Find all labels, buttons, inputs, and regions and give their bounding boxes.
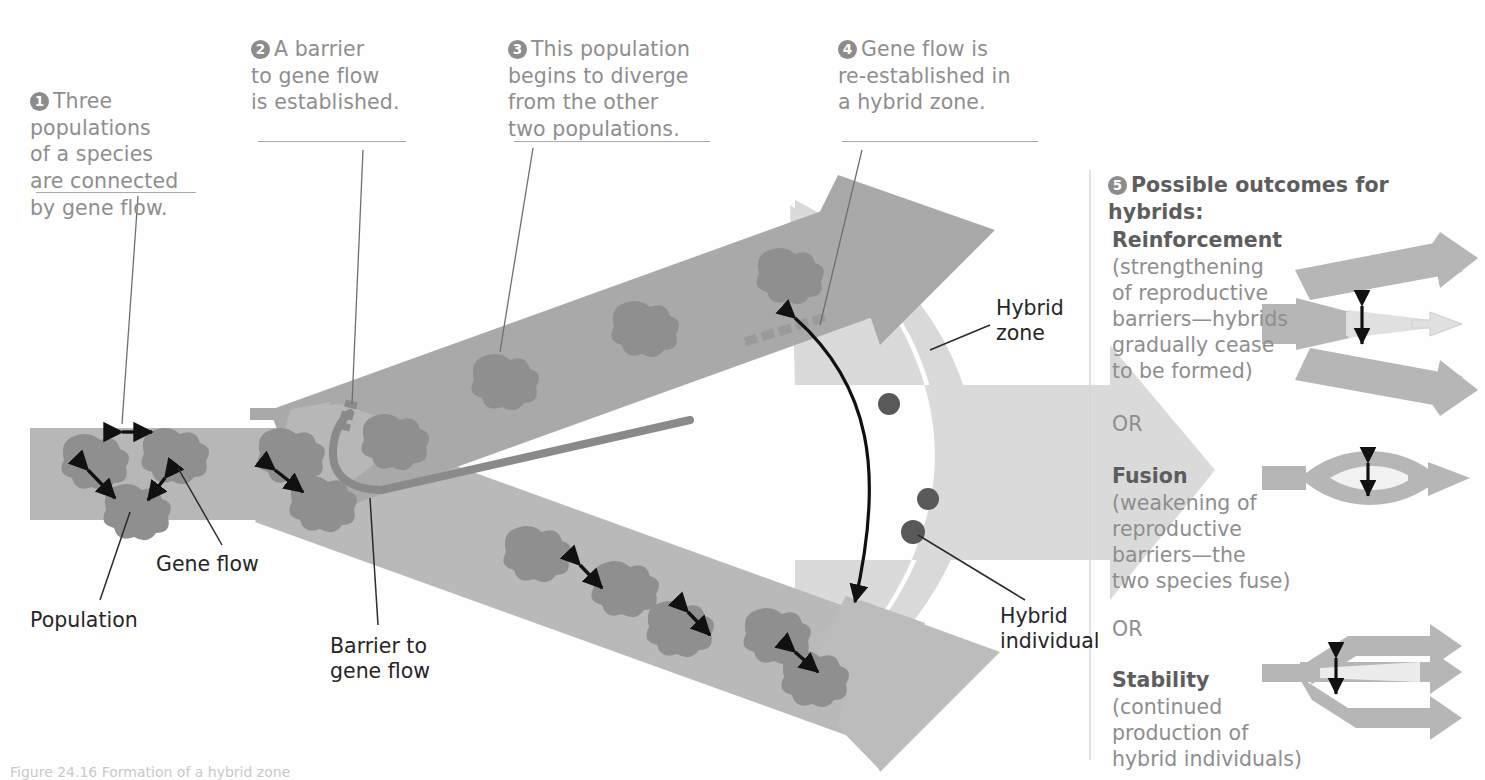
callout-4: 4Gene flow is re-established in a hybrid… bbox=[838, 36, 1038, 116]
outcome-stability-heading: Stability bbox=[1112, 668, 1209, 692]
label-population: Population bbox=[30, 608, 138, 633]
label-gene-flow: Gene flow bbox=[156, 552, 259, 577]
callout-3: 3This population begins to diverge from … bbox=[508, 36, 718, 143]
callout-1: 1Three populations of a species are conn… bbox=[30, 88, 215, 221]
right-panel-title: Possible outcomes for hybrids: bbox=[1108, 173, 1389, 224]
callout-1-text: Three populations of a species are conne… bbox=[30, 89, 178, 220]
callout-2-underline bbox=[258, 141, 406, 142]
callout-2-text: A barrier to gene flow is established. bbox=[251, 37, 400, 114]
callout-3-underline bbox=[514, 141, 710, 142]
callout-2-badge: 2 bbox=[251, 40, 270, 59]
callout-2: 2A barrier to gene flow is established. bbox=[251, 36, 411, 116]
label-barrier-to-gene-flow: Barrier to gene flow bbox=[330, 634, 430, 684]
callout-1-underline bbox=[36, 192, 196, 193]
outcome-reinforcement-body: (strengthening of reproductive barriers—… bbox=[1112, 254, 1302, 384]
callout-1-badge: 1 bbox=[30, 92, 49, 111]
label-hybrid-zone: Hybrid zone bbox=[996, 296, 1064, 346]
label-hybrid-individual: Hybrid individual bbox=[1000, 604, 1100, 654]
outcome-reinforcement-heading: Reinforcement bbox=[1112, 228, 1282, 252]
callout-3-text: This population begins to diverge from t… bbox=[508, 37, 690, 141]
or-label-1: OR bbox=[1112, 412, 1142, 436]
outcome-fusion-heading: Fusion bbox=[1112, 464, 1187, 488]
outcome-stability-body: (continued production of hybrid individu… bbox=[1112, 694, 1312, 772]
figure-caption: Figure 24.16 Formation of a hybrid zone bbox=[10, 764, 290, 780]
right-panel-title-row: 5Possible outcomes for hybrids: bbox=[1108, 172, 1438, 225]
callout-3-badge: 3 bbox=[508, 40, 527, 59]
callout-4-text: Gene flow is re-established in a hybrid … bbox=[838, 37, 1011, 114]
callout-4-badge: 4 bbox=[838, 40, 857, 59]
callout-5-badge: 5 bbox=[1108, 176, 1127, 195]
or-label-2: OR bbox=[1112, 617, 1142, 641]
callout-4-underline bbox=[842, 141, 1038, 142]
outcome-fusion-body: (weakening of reproductive barriers—the … bbox=[1112, 490, 1302, 594]
